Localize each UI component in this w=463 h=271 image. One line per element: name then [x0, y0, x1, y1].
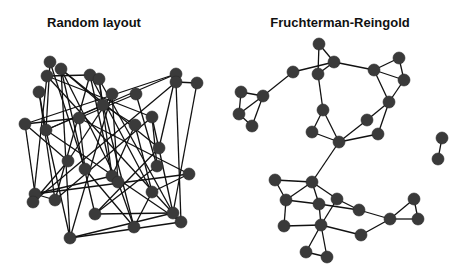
graph-node: [287, 66, 299, 78]
graph-node: [41, 70, 53, 82]
graph-node: [55, 63, 67, 75]
graph-node: [64, 232, 76, 244]
graph-node: [331, 193, 343, 205]
graph-node: [153, 142, 165, 154]
graph-node: [183, 168, 195, 180]
graph-node: [19, 118, 31, 130]
graph-node: [408, 193, 420, 205]
random-layout-graph: [19, 56, 203, 244]
graph-node: [27, 196, 39, 208]
graph-node: [278, 220, 290, 232]
graph-node: [33, 86, 45, 98]
graph-node: [355, 229, 367, 241]
graph-node: [313, 38, 325, 50]
graph-node: [146, 186, 158, 198]
graph-edge: [61, 69, 95, 214]
graph-edge: [312, 142, 339, 182]
graph-edge: [95, 213, 173, 214]
graph-node: [112, 176, 124, 188]
graph-node: [312, 68, 324, 80]
graph-node: [384, 213, 396, 225]
graph-edge: [25, 124, 35, 194]
graph-node: [44, 56, 56, 68]
graph-node: [257, 90, 269, 102]
fruchterman-reingold-graph: [233, 38, 448, 263]
graph-node: [175, 216, 187, 228]
graph-node: [79, 163, 91, 175]
graph-node: [321, 251, 333, 263]
graph-edge: [46, 130, 70, 238]
graph-node: [151, 160, 163, 172]
graph-node: [269, 174, 281, 186]
graph-node: [306, 126, 318, 138]
graph-node: [106, 88, 118, 100]
graph-edge: [46, 74, 176, 130]
graph-node: [333, 136, 345, 148]
graph-node: [130, 88, 142, 100]
graph-node: [383, 96, 395, 108]
graph-node: [412, 213, 424, 225]
graph-node: [436, 132, 448, 144]
fruchterman-reingold-edges: [239, 44, 442, 257]
graph-node: [368, 64, 380, 76]
graph-node: [97, 99, 109, 111]
graph-node: [353, 204, 365, 216]
graph-node: [49, 194, 61, 206]
graph-node: [317, 104, 329, 116]
graph-node: [191, 77, 203, 89]
graph-node: [432, 153, 444, 165]
graph-node: [93, 73, 105, 85]
graph-node: [306, 176, 318, 188]
graph-node: [128, 221, 140, 233]
graph-node: [170, 76, 182, 88]
graph-node: [328, 56, 340, 68]
graph-edge: [176, 82, 181, 222]
graph-node: [280, 194, 292, 206]
graph-node: [315, 219, 327, 231]
graph-node: [372, 128, 384, 140]
graph-node: [40, 124, 52, 136]
graph-node: [398, 74, 410, 86]
graph-node: [129, 119, 141, 131]
graph-edge: [47, 75, 90, 76]
graph-node: [235, 86, 247, 98]
graph-node: [62, 155, 74, 167]
graph-node: [73, 112, 85, 124]
graph-node: [393, 52, 405, 64]
graph-node: [300, 246, 312, 258]
graph-canvas: [0, 0, 463, 271]
graph-node: [146, 111, 158, 123]
graph-node: [361, 114, 373, 126]
graph-node: [233, 108, 245, 120]
graph-node: [89, 208, 101, 220]
graph-node: [246, 120, 258, 132]
graph-node: [313, 198, 325, 210]
